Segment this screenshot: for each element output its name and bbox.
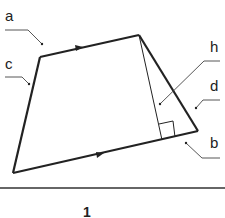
trapezoid-diagram: a c h d b 1 <box>0 0 225 218</box>
figure-number: 1 <box>83 204 91 218</box>
side-b <box>13 131 198 173</box>
leader-d <box>196 100 220 108</box>
leader-c-dot <box>28 83 30 85</box>
label-h: h <box>210 38 218 55</box>
label-d: d <box>210 77 218 94</box>
leader-d-dot <box>195 107 197 109</box>
label-a: a <box>5 7 14 24</box>
side-c <box>13 57 40 173</box>
label-b: b <box>210 134 218 151</box>
leader-h-dot <box>159 103 161 105</box>
right-angle-marker <box>159 121 175 137</box>
label-c: c <box>5 55 13 72</box>
leader-c <box>5 77 29 84</box>
height-line <box>139 35 162 140</box>
leader-b-dot <box>185 142 187 144</box>
leader-a <box>5 30 42 44</box>
side-a <box>40 35 139 57</box>
side-d <box>139 35 198 131</box>
leader-a-dot <box>41 43 43 45</box>
arrow-icon-bottom <box>96 152 104 158</box>
